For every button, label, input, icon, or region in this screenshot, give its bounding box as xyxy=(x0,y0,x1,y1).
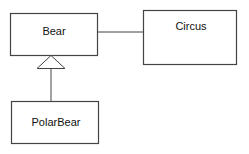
class-name-bear: Bear xyxy=(42,25,66,37)
class-name-polarbear: PolarBear xyxy=(32,116,81,128)
class-circus[interactable]: Circus xyxy=(144,11,237,65)
class-polarbear[interactable]: PolarBear xyxy=(12,102,99,144)
class-bear[interactable]: Bear xyxy=(11,14,98,56)
class-box-circus xyxy=(144,11,237,65)
uml-diagram: Bear Circus PolarBear xyxy=(0,0,249,154)
inheritance-triangle-icon xyxy=(37,56,65,69)
class-name-circus: Circus xyxy=(175,20,207,32)
